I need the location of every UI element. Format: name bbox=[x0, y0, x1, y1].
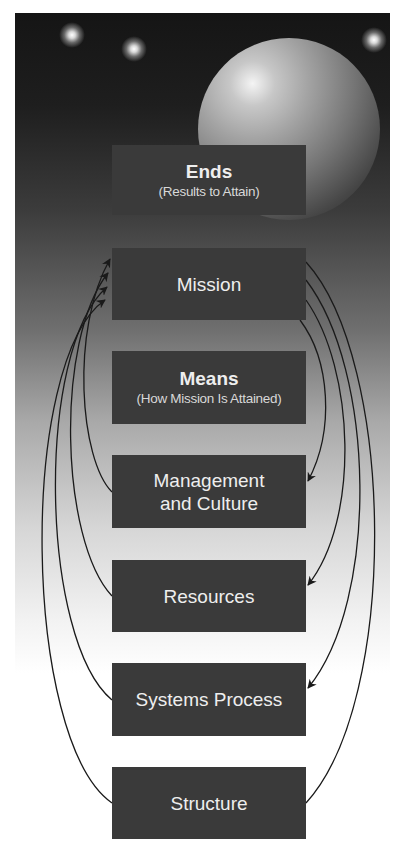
box-means: Means (How Mission Is Attained) bbox=[112, 351, 306, 424]
box-management-title-line2: and Culture bbox=[160, 492, 258, 515]
box-mission: Mission bbox=[112, 248, 306, 320]
box-systems-process-title: Systems Process bbox=[136, 688, 283, 711]
connector-structure-to-mission bbox=[42, 300, 112, 803]
box-structure: Structure bbox=[112, 767, 306, 839]
box-means-subtitle: (How Mission Is Attained) bbox=[137, 390, 282, 408]
box-means-title: Means bbox=[179, 367, 238, 390]
box-ends-subtitle: (Results to Attain) bbox=[159, 183, 260, 201]
connector-resources-to-mission bbox=[71, 273, 112, 596]
connector-mission-to-structure bbox=[306, 262, 375, 803]
box-management-and-culture: Management and Culture bbox=[112, 455, 306, 528]
box-ends: Ends (Results to Attain) bbox=[112, 145, 306, 215]
connector-mission-to-systems bbox=[306, 280, 360, 688]
box-structure-title: Structure bbox=[170, 792, 247, 815]
box-resources: Resources bbox=[112, 560, 306, 632]
box-resources-title: Resources bbox=[164, 585, 255, 608]
box-ends-title: Ends bbox=[186, 160, 232, 183]
connector-management-to-mission bbox=[84, 259, 112, 492]
box-systems-process: Systems Process bbox=[112, 663, 306, 736]
connector-systems-to-mission bbox=[55, 287, 112, 700]
box-management-title-line1: Management bbox=[154, 469, 265, 492]
box-mission-title: Mission bbox=[177, 273, 241, 296]
connector-mission-to-resources bbox=[306, 300, 345, 585]
